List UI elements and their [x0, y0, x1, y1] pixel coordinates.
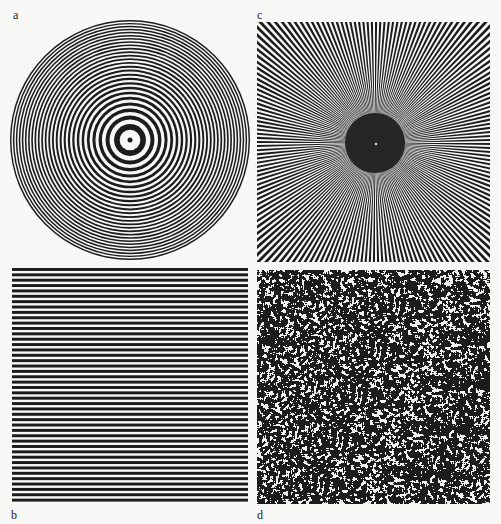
panel-a-concentric-rings	[10, 18, 250, 263]
noise-texture	[257, 270, 490, 504]
panel-c-radial-sunburst	[257, 22, 490, 262]
panel-d-random-noise	[257, 270, 490, 508]
panel-label-d: d	[257, 509, 263, 521]
panel-label-b: b	[11, 509, 17, 521]
panel-label-c: c	[257, 9, 262, 21]
panel-b-horizontal-gratings	[12, 268, 248, 504]
